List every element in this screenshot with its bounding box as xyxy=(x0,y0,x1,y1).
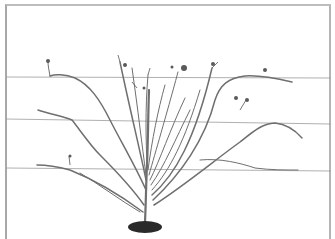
middle-wire xyxy=(6,119,331,124)
leaf-clusters xyxy=(46,59,267,158)
top-wire xyxy=(6,77,331,78)
soil-mound xyxy=(128,221,162,233)
plant-illustration xyxy=(0,0,335,239)
plant-canes xyxy=(37,55,302,222)
